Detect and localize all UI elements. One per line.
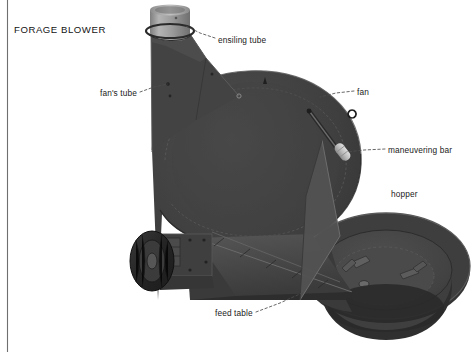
wheel — [130, 231, 174, 291]
ensiling-tube — [146, 4, 194, 41]
label-fans-tube: fan's tube — [100, 89, 137, 97]
label-feed-table: feed table — [215, 309, 253, 317]
illustration-canvas: FORAGE BLOWER ensiling tube fan maneuver… — [0, 0, 472, 352]
label-ensiling-tube: ensiling tube — [218, 36, 266, 44]
page-title: FORAGE BLOWER — [14, 24, 106, 35]
label-fan: fan — [357, 88, 369, 96]
label-maneuvering-bar: maneuvering bar — [388, 146, 452, 154]
forage-blower-drawing — [0, 0, 472, 352]
label-hopper: hopper — [391, 190, 418, 198]
